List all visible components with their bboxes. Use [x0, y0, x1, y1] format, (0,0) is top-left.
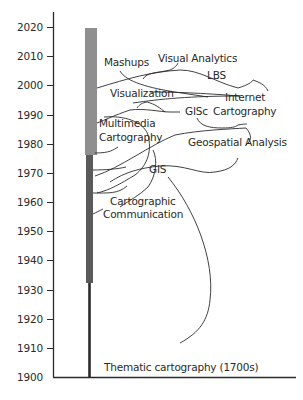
bar-light-segment [85, 28, 97, 155]
bar-dark-segment [86, 155, 93, 283]
term-multimedia: Multimedia [99, 117, 155, 130]
tick-label-2000: 2000 [17, 80, 43, 91]
term-internet: Internet [225, 91, 265, 104]
term-visualization: Visualization [110, 87, 174, 100]
tick-label-1940: 1940 [17, 255, 43, 266]
tick-label-1960: 1960 [17, 197, 43, 208]
tick-label-1930: 1930 [17, 285, 43, 296]
term-gis: GIS [149, 163, 166, 176]
tick-label-1970: 1970 [17, 168, 43, 179]
term-cartographic: Cartographic [110, 195, 176, 208]
tick-label-1980: 1980 [17, 139, 43, 150]
term-thematic-cartography: Thematic cartography (1700s) [104, 361, 258, 374]
term-internet-cartography: Cartography [213, 105, 276, 118]
tick-label-1900: 1900 [17, 372, 43, 383]
term-cartographic-communication: Communication [103, 208, 183, 221]
tick-marks [47, 28, 53, 349]
tick-label-2010: 2010 [17, 51, 43, 62]
term-lbs: LBS [207, 69, 226, 82]
tick-label-1910: 1910 [17, 343, 43, 354]
term-multimedia-cartography: Cartography [99, 131, 162, 144]
term-gisc: GISc [185, 105, 208, 118]
tick-label-1920: 1920 [17, 314, 43, 325]
term-mashups: Mashups [104, 56, 149, 69]
tick-label-1990: 1990 [17, 110, 43, 121]
tick-label-1950: 1950 [17, 226, 43, 237]
term-visual-analytics: Visual Analytics [158, 52, 237, 65]
term-geospatial-analysis: Geospatial Analysis [188, 136, 287, 149]
tick-label-2020: 2020 [17, 22, 43, 33]
